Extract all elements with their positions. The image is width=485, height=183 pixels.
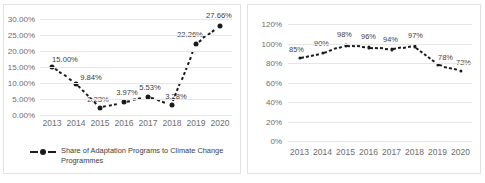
x-axis-tick: 2013 [43, 118, 62, 128]
charts-page: 30.00%25.00%20.00%15.00%10.00%5.00%0.00%… [0, 0, 485, 183]
chart-right: 120%100%80%60%40%20%0% 20132014201520162… [247, 4, 481, 174]
x-axis-tick: 2014 [67, 118, 86, 128]
y-axis-tick: 5.00% [12, 95, 35, 104]
gridline [40, 67, 232, 68]
data-point [170, 102, 175, 107]
x-axis-tick: 2015 [91, 118, 110, 128]
x-axis-tick: 2019 [428, 147, 447, 157]
y-axis-tick: 80% [266, 59, 282, 68]
gridline [288, 24, 472, 25]
y-axis-tick: 100% [262, 39, 282, 48]
chart-left: 30.00%25.00%20.00%15.00%10.00%5.00%0.00%… [3, 4, 241, 174]
gridline [40, 35, 232, 36]
data-label: 3.97% [116, 88, 138, 97]
y-axis-tick: 0.00% [12, 111, 35, 120]
data-label: 15.00% [52, 55, 78, 64]
line-segment [311, 54, 314, 57]
data-label: 96% [361, 32, 376, 41]
data-label: 9.84% [80, 72, 102, 81]
data-label: 22.26% [177, 29, 203, 38]
x-axis-tick: 2013 [290, 147, 309, 157]
gridline [40, 19, 232, 20]
data-label: 85% [289, 45, 304, 54]
x-axis-tick: 2018 [405, 147, 424, 157]
y-axis-tick: 15.00% [8, 63, 35, 72]
legend-label: Share of Adaptation Programs to Climate … [61, 146, 229, 166]
gridline [288, 63, 472, 64]
x-axis-tick: 2014 [313, 147, 332, 157]
line-segment [338, 46, 342, 49]
x-axis-tick: 2017 [382, 147, 401, 157]
gridline [40, 115, 232, 116]
y-axis-tick: 20% [266, 117, 282, 126]
data-label: 72% [456, 57, 471, 66]
data-point [98, 105, 103, 110]
line-segment [316, 53, 319, 56]
gridline [40, 99, 232, 100]
line-segment [162, 100, 166, 103]
y-axis-tick: 30.00% [8, 15, 35, 24]
legend-marker-icon [30, 148, 56, 155]
x-axis-tick: 2018 [163, 118, 182, 128]
y-axis-tick: 60% [266, 78, 282, 87]
legend-left: Share of Adaptation Programs to Climate … [30, 146, 229, 166]
gridline [40, 51, 232, 52]
data-label: 5.53% [139, 83, 161, 92]
data-label: 98% [337, 30, 352, 39]
y-axis-tick: 0% [270, 137, 282, 146]
line-segment [109, 104, 113, 107]
gridline [288, 44, 472, 45]
y-axis-tick: 20.00% [8, 47, 35, 56]
gridline [288, 122, 472, 123]
x-axis-tick: 2016 [115, 118, 134, 128]
y-axis-tick: 40% [266, 98, 282, 107]
x-axis-tick: 2020 [451, 147, 470, 157]
gridline [288, 102, 472, 103]
x-axis-tick: 2017 [139, 118, 158, 128]
x-axis-tick: 2020 [211, 118, 230, 128]
y-axis-tick: 10.00% [8, 79, 35, 88]
gridline [288, 83, 472, 84]
data-point [122, 100, 127, 105]
data-label: 97% [408, 31, 423, 40]
data-point [194, 41, 199, 46]
data-label: 78% [438, 52, 453, 61]
x-axis-tick: 2016 [359, 147, 378, 157]
x-axis-tick: 2015 [336, 147, 355, 157]
data-label: 94% [383, 35, 398, 44]
y-axis-tick: 120% [262, 20, 282, 29]
x-axis-tick: 2019 [187, 118, 206, 128]
data-point [218, 24, 223, 29]
gridline [40, 83, 232, 84]
gridline [288, 141, 472, 142]
y-axis-tick: 25.00% [8, 31, 35, 40]
